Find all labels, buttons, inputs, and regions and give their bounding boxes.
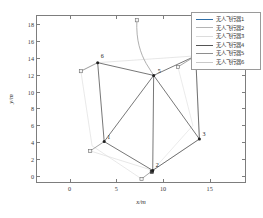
y-tick-mark xyxy=(242,108,245,109)
figure-canvas: 024681012141618051015123456 x/m y/m 无人飞行… xyxy=(0,0,263,218)
x-tick-label: 0 xyxy=(68,185,71,192)
graph-node-label: 2 xyxy=(156,162,159,168)
graph-node-label: 5 xyxy=(158,68,161,74)
legend-item-2[interactable]: 无人飞行器2 xyxy=(194,24,258,33)
x-tick-label: 5 xyxy=(115,185,118,192)
y-tick-mark xyxy=(37,41,40,42)
y-tick-label: 16 xyxy=(28,37,34,44)
graph-node-marker[interactable] xyxy=(198,138,201,141)
uav-trajectory-path xyxy=(81,63,98,71)
legend-item-label: 无人飞行器3 xyxy=(216,32,244,41)
network-edge xyxy=(153,75,154,170)
y-axis-title: y/m xyxy=(7,94,14,104)
y-tick-label: 4 xyxy=(31,139,34,146)
x-tick-mark xyxy=(70,16,71,19)
x-tick-mark xyxy=(70,179,71,182)
legend-item-3[interactable]: 无人飞行器3 xyxy=(194,32,258,41)
graph-node-marker[interactable] xyxy=(151,169,154,172)
x-tick-mark xyxy=(163,16,164,19)
y-tick-mark xyxy=(242,159,245,160)
uav-trajectory-path xyxy=(137,20,154,75)
uav-start-marker xyxy=(140,177,143,180)
network-edge xyxy=(154,75,200,139)
legend-line-swatch xyxy=(196,36,213,37)
y-tick-mark xyxy=(37,125,40,126)
y-tick-label: 0 xyxy=(31,173,34,180)
legend-item-4[interactable]: 无人飞行器4 xyxy=(194,41,258,50)
y-tick-mark xyxy=(37,176,40,177)
y-tick-mark xyxy=(37,108,40,109)
graph-node-marker[interactable] xyxy=(152,74,155,77)
legend-box: 无人飞行器1无人飞行器2无人飞行器3无人飞行器4无人飞行器5无人飞行器6 xyxy=(191,12,261,70)
y-tick-label: 8 xyxy=(31,105,34,112)
y-tick-label: 2 xyxy=(31,156,34,163)
legend-item-label: 无人飞行器2 xyxy=(216,24,244,33)
y-tick-label: 10 xyxy=(28,88,34,95)
legend-line-swatch xyxy=(196,53,213,54)
legend-item-5[interactable]: 无人飞行器5 xyxy=(194,49,258,58)
graph-node-label: 3 xyxy=(202,131,205,137)
y-tick-mark xyxy=(37,58,40,59)
uav-start-marker xyxy=(89,149,92,152)
y-tick-label: 18 xyxy=(28,20,34,27)
legend-line-swatch xyxy=(196,19,213,20)
x-tick-mark xyxy=(116,179,117,182)
legend-item-label: 无人飞行器5 xyxy=(216,49,244,58)
y-tick-mark xyxy=(37,142,40,143)
y-tick-mark xyxy=(242,125,245,126)
uav-start-marker xyxy=(135,19,138,22)
legend-item-6[interactable]: 无人飞行器6 xyxy=(194,58,258,67)
y-tick-mark xyxy=(242,75,245,76)
legend-line-swatch xyxy=(196,27,213,28)
x-tick-mark xyxy=(116,16,117,19)
legend-item-label: 无人飞行器4 xyxy=(216,41,244,50)
network-edge xyxy=(104,142,153,171)
legend-line-swatch xyxy=(196,62,213,63)
y-tick-label: 6 xyxy=(31,122,34,129)
y-tick-mark xyxy=(242,142,245,143)
uav-start-marker xyxy=(79,70,82,73)
y-tick-mark xyxy=(242,92,245,93)
graph-node-marker[interactable] xyxy=(103,140,106,143)
x-tick-mark xyxy=(163,179,164,182)
network-edge xyxy=(104,75,153,141)
graph-node-label: 1 xyxy=(107,134,110,140)
legend-item-1[interactable]: 无人飞行器1 xyxy=(194,15,258,24)
network-edge xyxy=(98,63,105,142)
y-tick-label: 14 xyxy=(28,54,34,61)
y-tick-mark xyxy=(242,176,245,177)
y-tick-mark xyxy=(37,75,40,76)
graph-node-label: 6 xyxy=(101,53,104,59)
x-tick-label: 10 xyxy=(160,185,166,192)
x-tick-label: 15 xyxy=(207,185,213,192)
y-tick-mark xyxy=(37,24,40,25)
y-tick-mark xyxy=(37,92,40,93)
y-tick-label: 12 xyxy=(28,71,34,78)
graph-node-marker[interactable] xyxy=(96,61,99,64)
network-edge xyxy=(98,63,154,76)
legend-line-swatch xyxy=(196,45,213,46)
legend-item-label: 无人飞行器1 xyxy=(216,15,244,24)
background-trace-path xyxy=(81,71,142,179)
x-tick-mark xyxy=(210,179,211,182)
network-edge xyxy=(153,139,200,170)
y-tick-mark xyxy=(37,159,40,160)
x-axis-title: x/m xyxy=(136,198,146,205)
legend-item-label: 无人飞行器6 xyxy=(216,58,244,67)
uav-start-marker xyxy=(176,65,179,68)
